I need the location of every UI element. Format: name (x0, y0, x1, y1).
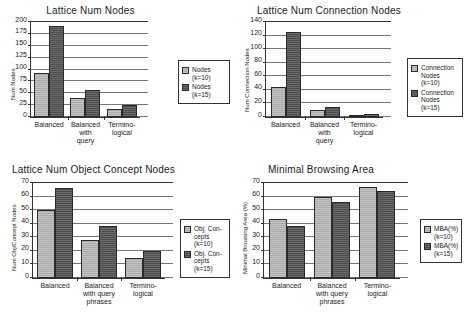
bar-group (359, 183, 395, 278)
chart-panel-lattice-num-nodes: Lattice Num Nodes Num Nodes 025507510012… (0, 0, 233, 159)
bar-groups (33, 183, 165, 278)
bar-group (125, 183, 161, 278)
y-tick-label: 30 (252, 230, 260, 237)
x-axis-ticks: BalancedBalancedwith queryphrasesTermino… (264, 278, 400, 312)
x-tick-label: Termino-logical (104, 117, 140, 151)
y-tick-label: 100 (15, 63, 27, 70)
legend-entry: Nodes (k=10) (182, 66, 226, 81)
bar-group (314, 183, 350, 278)
bar (143, 251, 161, 278)
y-tick-label: 50 (21, 203, 29, 210)
legend-entry: Obj. Con-cepts (k=15) (184, 250, 226, 273)
y-tick-label: 25 (19, 98, 27, 105)
x-tick-line: Balanced (310, 282, 355, 290)
plot-frame: 0255075100125150175200 BalancedBalancedw… (30, 22, 140, 118)
plot-area: 010203040506070 BalancedBalancedwith que… (263, 183, 400, 279)
y-tick-label: 40 (254, 83, 262, 90)
x-tick-line: logical (104, 129, 140, 137)
legend-entry: MBA(%)(k=15) (424, 242, 458, 257)
plot-area: 010203040506070 BalancedBalancedwith que… (32, 183, 165, 279)
chart-panel-minimal-browsing-area: Minimal Browsing Area Minimal Browsing A… (233, 159, 465, 318)
x-tick-separator (68, 116, 69, 120)
chart-title: Minimal Browsing Area (233, 164, 465, 175)
bar (99, 226, 117, 278)
bar-group (34, 22, 64, 117)
y-tick-label: 100 (250, 42, 262, 49)
bar (359, 187, 377, 278)
plot-frame: 010203040506070 BalancedBalancedwith que… (263, 183, 400, 279)
bar (85, 90, 100, 117)
y-tick-label: 20 (252, 244, 260, 251)
plot-frame: 020406080100120140 BalancedBalancedwithq… (265, 22, 383, 118)
x-tick-line: Balanced (77, 282, 121, 290)
chart-title: Lattice Num Nodes (0, 5, 233, 16)
x-tick-line: with query (77, 290, 121, 298)
bar (122, 105, 137, 117)
x-tick-separator (344, 116, 345, 120)
bar-group (81, 183, 117, 278)
y-tick-label: 60 (252, 190, 260, 197)
legend-entry: ConnectionNodes (k=10) (411, 64, 459, 87)
bar-group (269, 183, 305, 278)
legend-swatch (184, 251, 191, 258)
y-tick-label: 80 (254, 56, 262, 63)
x-tick-label: Termino-logical (344, 117, 383, 151)
x-tick-line: Termino- (121, 282, 165, 290)
bar (55, 188, 73, 278)
legend-swatch (411, 65, 418, 72)
bar (70, 98, 85, 117)
chart-title: Lattice Num Object Concept Nodes (0, 164, 233, 175)
bar-group (70, 22, 100, 117)
legend-label: MBA(%)(k=10) (434, 225, 458, 240)
bar-groups (31, 22, 140, 117)
x-tick-label: Termino-logical (355, 278, 400, 312)
y-tick-label: 175 (15, 27, 27, 34)
x-tick-line: query (305, 137, 344, 145)
legend-label: MBA(%)(k=15) (434, 242, 458, 257)
x-tick-line: with (68, 129, 104, 137)
x-tick-label: Balanced (31, 117, 67, 151)
y-tick-label: 60 (21, 190, 29, 197)
bar-group (310, 22, 340, 117)
bar-group (107, 22, 137, 117)
chart-panel-lattice-num-connection-nodes: Lattice Num Connection Nodes Num Connect… (233, 0, 465, 159)
x-tick-line: with query (310, 290, 355, 298)
x-tick-line: Termino- (355, 282, 400, 290)
legend-label-line: Obj. Con- (194, 250, 226, 258)
y-axis-label: Num Connection Nodes (244, 48, 250, 112)
y-tick-label: 0 (23, 110, 27, 117)
bar (34, 73, 49, 117)
chart-legend: Nodes (k=10)Nodes (k=15) (178, 60, 230, 104)
legend-label-line: MBA(%) (434, 225, 458, 233)
x-axis-ticks: BalancedBalancedwithqueryTermino-logical (31, 117, 140, 151)
y-tick-label: 150 (15, 39, 27, 46)
y-tick-label: 70 (21, 176, 29, 183)
x-axis-ticks: BalancedBalancedwithqueryTermino-logical (266, 117, 383, 151)
bar (310, 110, 325, 117)
legend-entry: Obj. Con-cepts (k=10) (184, 225, 226, 248)
y-tick-label: 70 (252, 176, 260, 183)
y-tick-label: 200 (15, 15, 27, 22)
legend-entry: ConnectionNodes (k=15) (411, 89, 459, 112)
x-tick-line: Termino- (104, 121, 140, 129)
bar (49, 26, 64, 117)
legend-swatch (182, 67, 189, 74)
bar (271, 87, 286, 117)
y-tick-label: 30 (21, 230, 29, 237)
x-tick-label: Balancedwith queryphrases (77, 278, 121, 312)
y-tick-label: 75 (19, 74, 27, 81)
legend-swatch (184, 226, 191, 233)
x-tick-line: Balanced (68, 121, 104, 129)
legend-entry: MBA(%)(k=10) (424, 225, 458, 240)
y-tick-label: 10 (21, 257, 29, 264)
bar (37, 210, 55, 278)
legend-label-line: Nodes (k=15) (421, 96, 459, 111)
y-tick-label: 50 (19, 86, 27, 93)
y-tick-label: 125 (15, 51, 27, 58)
x-tick-line: Balanced (33, 282, 77, 290)
x-tick-separator (305, 116, 306, 120)
legend-label-line: cepts (k=10) (194, 233, 226, 248)
y-axis-label: Minimal Browsing Area (%) (242, 202, 248, 274)
plot-frame: 010203040506070 BalancedBalancedwith que… (32, 183, 165, 279)
legend-label: Nodes (k=10) (192, 66, 226, 81)
